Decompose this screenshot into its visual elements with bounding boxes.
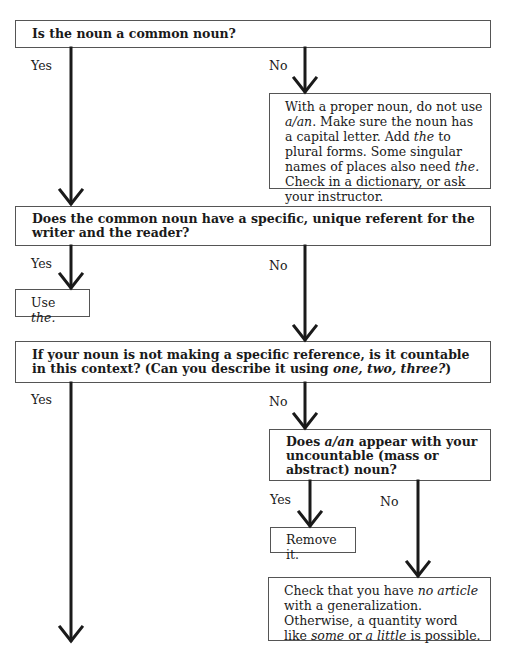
flow-arrows [0,0,506,658]
